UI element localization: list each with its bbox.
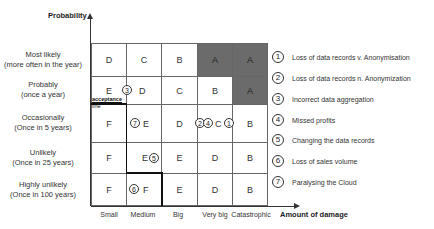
cell-r1-c2: C — [161, 76, 198, 105]
cell-r4-c3: D — [197, 173, 233, 206]
legend-item-2: 2 Loss of data records n. Anonymization — [272, 72, 411, 84]
number-2-icon: 2 — [272, 72, 284, 84]
legend-item-7: 7 Paralysing the Cloud — [272, 176, 357, 188]
number-7-icon: 7 — [272, 176, 284, 188]
legend-item-3: 3 Incorrect data aggregation — [272, 93, 374, 105]
cell-r4-c4: B — [232, 173, 268, 206]
y-level-occasionally: Occasionally (Once in 5 years) — [0, 113, 86, 133]
y-axis-title: Probability — [48, 11, 87, 20]
cell-r4-c0: F — [91, 173, 127, 206]
risk-marker-4: 4 — [203, 118, 213, 128]
legend-item-5: 5 Changing the data records — [272, 134, 375, 146]
x-axis-title: Amount of damage — [280, 210, 348, 219]
acceptance-line-seg4 — [161, 172, 163, 206]
y-level-probably: Probably (once a year) — [0, 80, 86, 100]
number-5-icon: 5 — [272, 134, 284, 146]
cell-r0-c2: B — [161, 43, 198, 77]
x-level-big: Big — [158, 211, 198, 218]
cell-r3-c3: D — [197, 142, 233, 174]
risk-marker-1: 1 — [224, 118, 234, 128]
number-6-icon: 6 — [272, 155, 284, 167]
x-axis-arrow-icon — [294, 203, 300, 209]
cell-r0-c0: D — [91, 43, 127, 77]
y-level-unlikely: Unlikely (Once in 25 years) — [0, 148, 86, 168]
risk-marker-7: 7 — [130, 118, 140, 128]
legend-item-6: 6 Loss of sales volume — [272, 155, 357, 167]
y-level-most-likely: Most likely (more often in the year) — [0, 50, 86, 70]
cell-r4-c2: E — [161, 173, 198, 206]
y-level-highly-unlikely: Highly unlikely (Once in 100 years) — [0, 180, 86, 200]
cell-r2-c2: D — [161, 104, 198, 143]
cell-r2-c4: B — [232, 104, 268, 143]
y-axis-arrow-icon — [87, 13, 93, 19]
cell-r0-c3: A — [197, 43, 233, 77]
x-level-catastrophic: Catastrophic — [226, 211, 276, 218]
legend-item-4: 4 Missed profits — [272, 114, 335, 126]
risk-marker-5: 5 — [149, 153, 159, 163]
number-1-icon: 1 — [272, 51, 284, 63]
cell-r3-c4: B — [232, 142, 268, 174]
cell-r3-c2: E — [161, 142, 198, 174]
x-axis-line — [91, 206, 295, 207]
cell-r0-c4: A — [232, 43, 268, 77]
number-4-icon: 4 — [272, 114, 284, 126]
cell-r1-c3: B — [197, 76, 233, 105]
cell-r1-c4: A — [232, 76, 268, 105]
x-level-medium: Medium — [123, 211, 163, 218]
acceptance-line-label: acceptance line — [92, 96, 122, 109]
acceptance-line-seg3 — [126, 172, 163, 174]
risk-marker-3: 3 — [122, 85, 132, 95]
cell-r0-c1: C — [126, 43, 162, 77]
legend-item-1: 1 Loss of data records v. Anonymisation — [272, 51, 410, 63]
cell-r3-c0: F — [91, 142, 127, 174]
risk-marker-6: 6 — [129, 184, 139, 194]
acceptance-line-seg2 — [126, 103, 128, 174]
number-3-icon: 3 — [272, 93, 284, 105]
cell-r2-c0: F — [91, 104, 127, 143]
